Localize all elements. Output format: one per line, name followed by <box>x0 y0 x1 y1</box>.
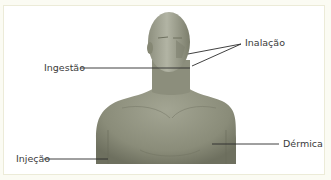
inalacao-line-nose <box>188 44 241 54</box>
label-injecao: Injeção <box>16 153 50 164</box>
inalacao-line-mouth <box>192 44 241 66</box>
label-inalacao: Inalação <box>245 37 285 48</box>
label-ingestao: Ingestão <box>44 62 85 73</box>
label-dermica: Dérmica <box>283 138 323 149</box>
head-shape <box>148 12 190 72</box>
